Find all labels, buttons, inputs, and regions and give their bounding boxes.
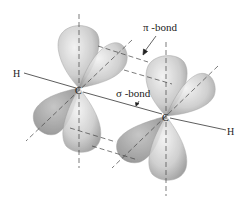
carbon-right-label: C (162, 112, 169, 123)
pi-sigma-bond-diagram: π -bond σ -bond C C H H (0, 0, 245, 197)
sigma-bond-arrowhead (136, 103, 140, 107)
pi-bond-arrow-line (145, 36, 156, 51)
hydrogen-right-label: H (227, 126, 234, 137)
pi-bond-label: π -bond (143, 21, 177, 33)
bond-c-right-to-h-right (170, 118, 226, 130)
bond-h-left-to-c-left (24, 73, 76, 88)
hydrogen-left-label: H (13, 68, 20, 79)
pi-bond-arrowhead (143, 49, 148, 55)
sigma-bond-label: σ -bond (116, 87, 151, 99)
carbon-left-label: C (75, 85, 82, 96)
